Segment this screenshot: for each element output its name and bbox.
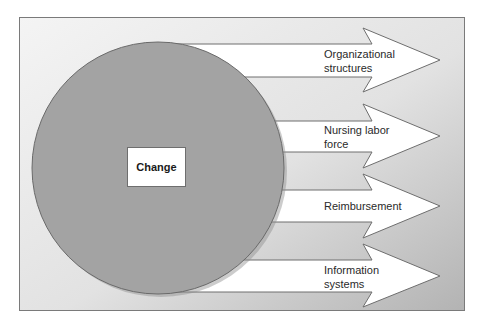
- label-line-2: systems: [324, 277, 379, 291]
- label-line-1: Reimbursement: [324, 199, 402, 213]
- label-line-2: structures: [324, 61, 395, 75]
- change-diagram: Change Organizational structures Nursing…: [0, 0, 486, 325]
- label-line-1: Information: [324, 263, 379, 277]
- outcome-label-information-systems: Information systems: [324, 263, 379, 291]
- diagram-canvas: [0, 0, 486, 325]
- change-label-box: Change: [127, 147, 186, 187]
- label-line-1: Organizational: [324, 47, 395, 61]
- change-label: Change: [136, 161, 176, 173]
- label-line-1: Nursing labor: [324, 123, 389, 137]
- label-line-2: force: [324, 137, 389, 151]
- outcome-label-organizational-structures: Organizational structures: [324, 47, 395, 75]
- outcome-label-reimbursement: Reimbursement: [324, 199, 402, 213]
- outcome-label-nursing-labor-force: Nursing labor force: [324, 123, 389, 151]
